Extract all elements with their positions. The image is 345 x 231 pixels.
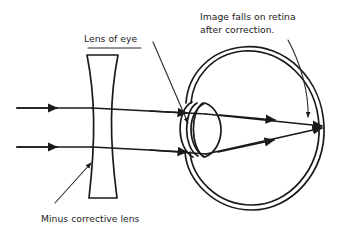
minus-corrective-lens-leader-line <box>55 163 91 203</box>
ray-upper-lens-to-cornea <box>150 111 206 114</box>
image-on-retina-leader-line <box>288 40 308 117</box>
ray-upper-retina-arrow <box>220 115 275 120</box>
label-lens-of-eye: Lens of eye <box>84 33 138 44</box>
label-minus-corrective-lens: Minus corrective lens <box>41 213 140 224</box>
label-image-on-retina-line1: Image falls on retina <box>200 11 296 22</box>
label-image-on-retina-group: Image falls on retina after correction. <box>200 11 308 117</box>
crystalline-lens-outline <box>191 103 221 157</box>
crystalline-lens-group <box>191 103 221 157</box>
minus-corrective-lens-group <box>87 55 118 198</box>
diagram-canvas: Lens of eye Image falls on retina after … <box>0 0 345 231</box>
sclera-inner-wall <box>190 51 319 205</box>
light-rays-group <box>17 108 322 154</box>
optics-diagram-figure: Lens of eye Image falls on retina after … <box>0 0 345 231</box>
label-image-on-retina-line2: after correction. <box>200 24 275 35</box>
ray-lower-retina-arrow <box>218 140 274 152</box>
eyeball-group <box>180 47 324 210</box>
minus-corrective-lens-outline <box>87 55 118 198</box>
